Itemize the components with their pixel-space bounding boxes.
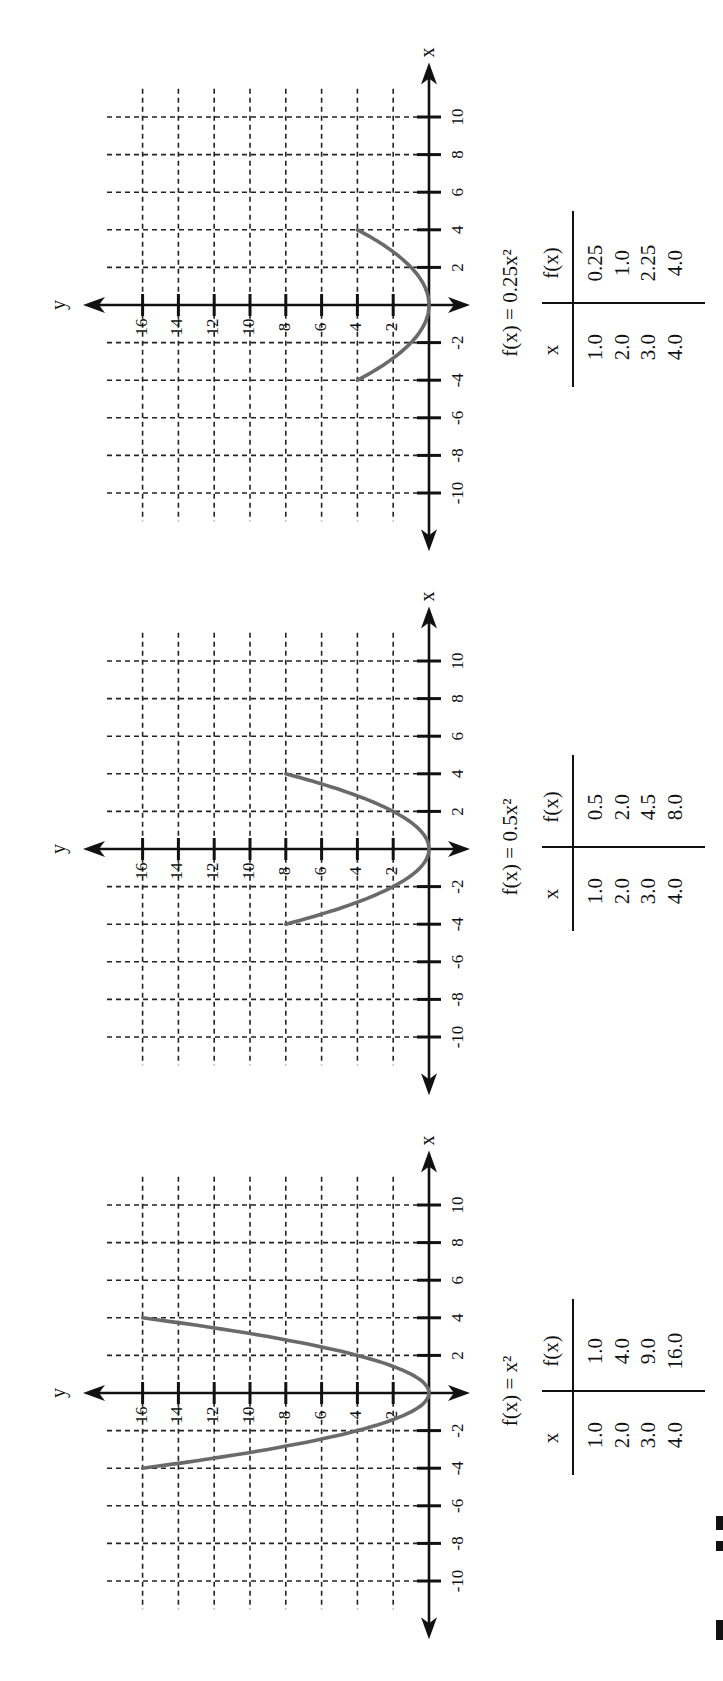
y-tick-label: 12 [203, 319, 222, 336]
y-tick-label: 14 [167, 1406, 186, 1424]
x-tick-label: -10 [448, 1026, 467, 1049]
x-tick-label: 8 [448, 694, 467, 703]
x-tick-label: -6 [448, 1499, 467, 1513]
x-tick-label: -4 [448, 373, 467, 388]
table-header-fx: f(x) [539, 1335, 563, 1366]
x-tick-label: -2 [448, 336, 467, 350]
table-cell-fx: 4.5 [636, 794, 660, 820]
y-tick-label: 12 [203, 863, 222, 880]
table-cell-x: 2.0 [610, 1422, 634, 1448]
x-tick-label: 8 [448, 1238, 467, 1247]
x-tick-label: -2 [448, 880, 467, 894]
x-tick-label: 2 [448, 807, 467, 816]
x-tick-label: 6 [448, 1276, 467, 1285]
x-tick-label: 10 [448, 1197, 467, 1214]
table-header-x: x [539, 1432, 563, 1443]
y-tick-label: 4 [346, 866, 365, 875]
x-tick-label: -8 [448, 992, 467, 1006]
x-axis-label: x [416, 591, 438, 601]
y-tick-label: 2 [382, 867, 401, 876]
table-cell-x: 3.0 [636, 334, 660, 360]
caption-fragment [716, 1516, 723, 1640]
y-tick-label: 16 [132, 1407, 151, 1424]
y-tick-label: 8 [275, 1411, 294, 1420]
table-header-x: x [539, 344, 563, 355]
table-cell-fx: 9.0 [636, 1338, 660, 1364]
table-cell-x: 1.0 [583, 1422, 607, 1448]
y-tick-label: 6 [311, 1411, 330, 1420]
y-tick-label: 16 [132, 319, 151, 336]
x-tick-label: -2 [448, 1424, 467, 1438]
table-cell-x: 2.0 [610, 878, 634, 904]
x-tick-label: -10 [448, 482, 467, 505]
y-tick-label: 8 [275, 867, 294, 876]
table-cell-x: 1.0 [583, 334, 607, 360]
y-tick-label: 12 [203, 1407, 222, 1424]
table-header-fx: f(x) [539, 247, 563, 278]
function-title: f(x) = x² [498, 1356, 522, 1427]
y-tick-label: 6 [311, 867, 330, 876]
x-tick-label: 2 [448, 1351, 467, 1360]
y-tick-label: 4 [346, 1410, 365, 1419]
y-tick-label: 8 [275, 323, 294, 332]
y-axis-label: y [47, 844, 70, 854]
x-axis-label: x [416, 1135, 438, 1145]
y-tick-label: 16 [132, 863, 151, 880]
table-cell-fx: 1.0 [583, 1338, 607, 1364]
table-cell-fx: 2.25 [636, 245, 660, 282]
table-cell-fx: 8.0 [663, 794, 687, 820]
x-tick-label: 2 [448, 263, 467, 272]
x-axis-label: x [416, 47, 438, 57]
table-cell-x: 3.0 [636, 878, 660, 904]
table-cell-fx: 4.0 [610, 1338, 634, 1364]
x-tick-label: 4 [448, 769, 467, 778]
table-cell-fx: 16.0 [663, 1333, 687, 1370]
x-tick-label: -8 [448, 1536, 467, 1550]
x-tick-label: -4 [448, 917, 467, 932]
x-tick-label: -8 [448, 448, 467, 462]
graph-panel-1: xy-10-8-6-4-2246810246810121416f(x) = 0.… [47, 47, 705, 551]
x-tick-label: -6 [448, 411, 467, 425]
y-tick-label: 6 [311, 323, 330, 332]
graph-panel-3: xy-10-8-6-4-2246810246810121416f(x) = x²… [47, 1135, 705, 1639]
x-tick-label: -4 [448, 1461, 467, 1476]
x-tick-label: 6 [448, 732, 467, 741]
x-tick-label: 6 [448, 188, 467, 197]
table-cell-fx: 2.0 [610, 794, 634, 820]
y-tick-label: 14 [167, 862, 186, 880]
table-cell-x: 1.0 [583, 878, 607, 904]
function-title: f(x) = 0.25x² [498, 249, 522, 356]
table-header-fx: f(x) [539, 791, 563, 822]
x-tick-label: 8 [448, 150, 467, 159]
y-tick-label: 2 [382, 323, 401, 332]
y-tick-label: 4 [346, 322, 365, 331]
x-tick-label: -6 [448, 955, 467, 969]
table-header-x: x [539, 888, 563, 899]
y-tick-label: 10 [239, 863, 258, 880]
y-tick-label: 10 [239, 1407, 258, 1424]
y-axis-label: y [47, 300, 70, 310]
table-cell-x: 4.0 [663, 1422, 687, 1448]
y-tick-label: 14 [167, 318, 186, 336]
table-cell-x: 4.0 [663, 878, 687, 904]
table-cell-fx: 1.0 [610, 250, 634, 276]
parabola-figure: xy-10-8-6-4-2246810246810121416f(x) = 0.… [0, 0, 723, 1681]
x-tick-label: -10 [448, 1570, 467, 1593]
table-cell-fx: 4.0 [663, 250, 687, 276]
graph-panel-2: xy-10-8-6-4-2246810246810121416f(x) = 0.… [47, 591, 705, 1095]
table-cell-x: 2.0 [610, 334, 634, 360]
function-title: f(x) = 0.5x² [498, 799, 522, 896]
y-tick-label: 10 [239, 319, 258, 336]
x-tick-label: 10 [448, 653, 467, 670]
y-axis-label: y [47, 1388, 70, 1398]
table-cell-x: 4.0 [663, 334, 687, 360]
table-cell-fx: 0.5 [583, 794, 607, 820]
table-cell-x: 3.0 [636, 1422, 660, 1448]
x-tick-label: 4 [448, 225, 467, 234]
x-tick-label: 4 [448, 1313, 467, 1322]
x-tick-label: 10 [448, 109, 467, 126]
table-cell-fx: 0.25 [583, 245, 607, 282]
